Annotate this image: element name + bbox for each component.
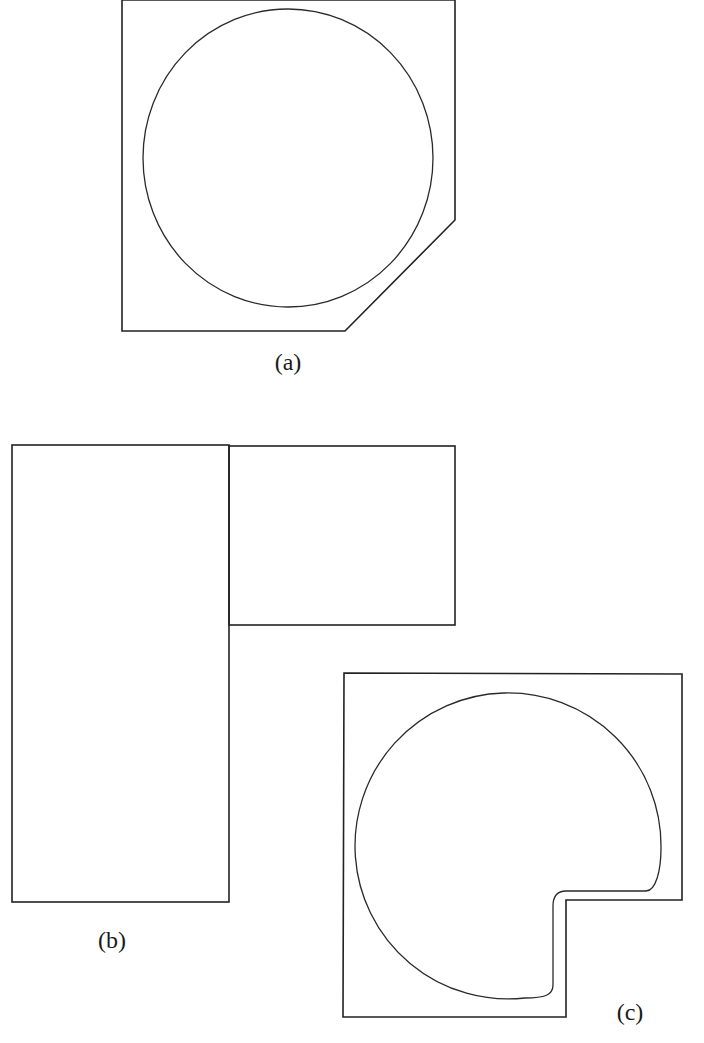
- figure-c-truncated-circle: [355, 693, 661, 999]
- figure-a-label: (a): [275, 349, 302, 375]
- figure-c-label: (c): [617, 999, 644, 1025]
- figure-c: (c): [343, 673, 682, 1025]
- figure-a-outline: [122, 0, 455, 331]
- figure-c-outline: [343, 673, 682, 1017]
- figure-b-label: (b): [98, 927, 126, 953]
- figure-a-circle: [143, 9, 433, 307]
- figure-b-small-rect: [229, 446, 455, 625]
- figure-b: (b): [12, 445, 455, 953]
- figure-b-tall-rect: [12, 445, 229, 902]
- figure-a: (a): [122, 0, 455, 375]
- diagram-canvas: (a) (b) (c): [0, 0, 704, 1043]
